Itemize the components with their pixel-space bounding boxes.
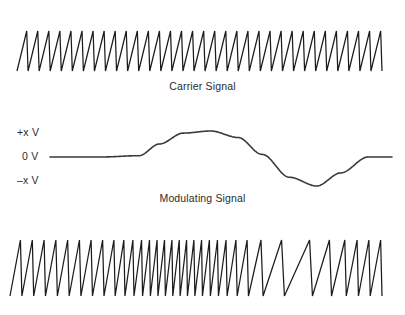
modulating-signal-panel: +x V 0 V –x V Modulating Signal <box>0 110 405 215</box>
modulated-waveform <box>0 215 405 315</box>
fm-signal-diagram: Carrier Signal +x V 0 V –x V Modulating … <box>0 0 405 315</box>
carrier-signal-panel: Carrier Signal <box>0 0 405 110</box>
carrier-signal-caption: Carrier Signal <box>0 80 405 92</box>
modulated-wave-path <box>10 240 382 296</box>
modulating-wave-path <box>50 131 392 186</box>
modulated-signal-panel <box>0 215 405 315</box>
carrier-waveform <box>0 0 405 110</box>
carrier-wave-path <box>17 31 382 71</box>
modulating-signal-caption: Modulating Signal <box>0 192 405 204</box>
